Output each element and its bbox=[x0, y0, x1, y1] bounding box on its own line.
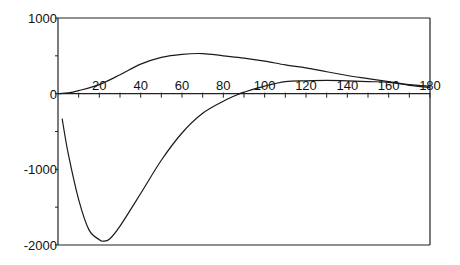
y-tick-labels: 10000-1000-2000 bbox=[24, 11, 57, 253]
y-tick-label: 0 bbox=[50, 87, 57, 102]
plot-frame bbox=[58, 18, 430, 245]
series-line-2 bbox=[62, 80, 430, 241]
x-tick-label: 140 bbox=[336, 78, 358, 93]
x-tick-label: 40 bbox=[133, 78, 147, 93]
x-tick-label: 100 bbox=[254, 78, 276, 93]
series-line-1 bbox=[58, 53, 430, 93]
x-tick-label: 120 bbox=[295, 78, 317, 93]
x-tick-label: 80 bbox=[216, 78, 230, 93]
y-tick-label: -1000 bbox=[24, 162, 57, 177]
chart-canvas: 20406080100120140160180 10000-1000-2000 bbox=[0, 0, 460, 265]
x-tick-label: 60 bbox=[175, 78, 189, 93]
y-tick-label: 1000 bbox=[28, 11, 57, 26]
y-tick-label: -2000 bbox=[24, 238, 57, 253]
line-chart: 20406080100120140160180 10000-1000-2000 bbox=[0, 0, 460, 265]
axis-ticks bbox=[55, 18, 430, 245]
data-series bbox=[58, 53, 430, 241]
